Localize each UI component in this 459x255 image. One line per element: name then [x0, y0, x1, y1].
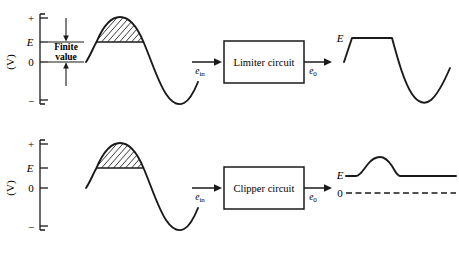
limiter-axis-minus-label: − [28, 95, 34, 107]
limiter-output-signal-label: e0 [309, 66, 317, 78]
limiter-axis-plus-label: + [28, 12, 34, 24]
limiter-row: + E 0 − (V) Finite value [4, 12, 450, 107]
limiter-input-signal-label: ein [195, 66, 205, 78]
clipper-row: + E 0 − (V) ei [4, 138, 456, 233]
limiter-circuit-label: Limiter circuit [234, 57, 295, 68]
finite-value-annotation: Finite value [48, 18, 84, 86]
clipper-output-waveform [346, 157, 456, 176]
clipper-circuit-label: Clipper circuit [234, 183, 295, 194]
clipper-input-arrow [192, 184, 222, 191]
limiter-axis [40, 14, 48, 104]
limiter-input-arrow [192, 58, 222, 65]
limiter-axis-unit-label: (V) [4, 54, 17, 70]
clipper-axis-unit-label: (V) [4, 180, 17, 196]
clipper-axis-zero-label: 0 [28, 182, 34, 194]
clipper-output-arrow [304, 184, 332, 191]
clipper-axis-plus-label: + [28, 138, 34, 150]
finite-value-line1: Finite [54, 42, 78, 52]
limiter-output-level-label: E [336, 32, 344, 44]
limiter-clipper-figure: + E 0 − (V) Finite value [0, 0, 459, 255]
clipper-input-signal-label: ein [195, 192, 205, 204]
finite-value-line2: value [55, 52, 77, 62]
limiter-axis-zero-label: 0 [28, 56, 34, 68]
limiter-input-waveform [86, 17, 198, 104]
clipper-input-waveform [86, 143, 198, 230]
clipper-axis-level-label: E [26, 162, 34, 174]
clipper-output-zero-label: 0 [337, 187, 343, 199]
clipper-axis [40, 140, 48, 230]
limiter-axis-level-label: E [26, 36, 34, 48]
clipper-output-level-label: E [336, 169, 344, 181]
limiter-output-waveform [344, 38, 450, 103]
clipper-output-signal-label: e0 [309, 192, 317, 204]
limiter-output-arrow [304, 58, 332, 65]
clipper-axis-minus-label: − [28, 221, 34, 233]
